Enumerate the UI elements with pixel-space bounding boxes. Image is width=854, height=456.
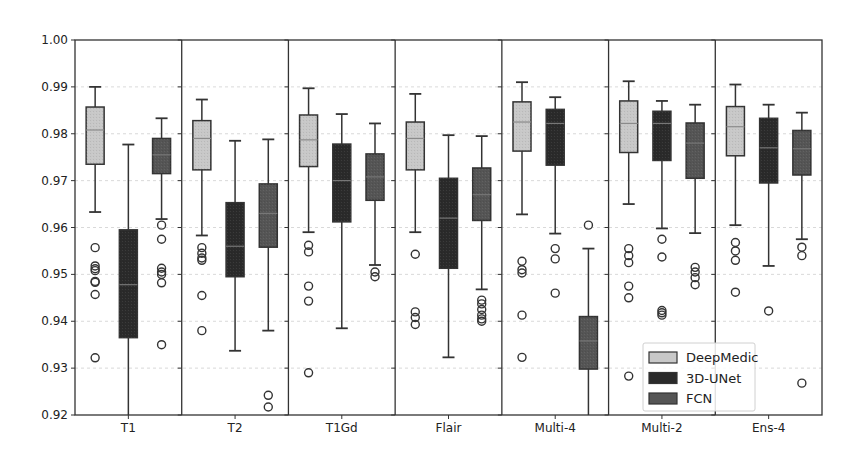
outlier-point [518, 257, 526, 265]
outlier-point [658, 253, 666, 261]
y-tick-label: 0.99 [41, 80, 68, 94]
box-3d-unet-t2 [226, 141, 244, 351]
outlier-point [551, 245, 559, 253]
legend-swatch [649, 373, 677, 384]
x-tick-label: Flair [436, 421, 462, 435]
y-tick-label: 0.95 [41, 267, 68, 281]
box-fcn-ens-4 [793, 113, 811, 387]
box-deepmedic-ens-4 [726, 85, 744, 297]
chart-canvas: 0.920.930.940.950.960.970.980.991.00 T1T… [0, 0, 854, 456]
outlier-point [411, 250, 419, 258]
outlier-point [518, 311, 526, 319]
y-axis: 0.920.930.940.950.960.970.980.991.00 [41, 33, 75, 422]
box-fcn-t2 [259, 139, 277, 411]
outlier-point [551, 255, 559, 263]
x-tick-label: Multi-2 [641, 421, 682, 435]
outlier-point [765, 307, 773, 315]
legend-label: 3D-UNet [686, 371, 741, 386]
y-tick-label: 0.97 [41, 174, 68, 188]
outlier-point [264, 391, 272, 399]
outlier-point [658, 235, 666, 243]
outlier-point [91, 291, 99, 299]
outlier-point [264, 403, 272, 411]
legend-item-deepmedic: DeepMedic [649, 350, 758, 365]
outlier-point [158, 221, 166, 229]
outlier-point [731, 247, 739, 255]
y-tick-label: 0.96 [41, 221, 68, 235]
outlier-point [798, 252, 806, 260]
outlier-point [158, 279, 166, 287]
legend-swatch [649, 352, 677, 363]
box-fcn-t1gd [366, 123, 384, 280]
box-fcn-t1 [153, 118, 171, 348]
outlier-point [798, 379, 806, 387]
box-fcn-multi-4 [579, 221, 597, 415]
outlier-point [158, 235, 166, 243]
box-3d-unet-multi-4 [546, 97, 564, 297]
box-plot-chart: 0.920.930.940.950.960.970.980.991.00 T1T… [0, 0, 854, 456]
box-3d-unet-multi-2 [653, 101, 671, 319]
box-3d-unet-flair [440, 135, 458, 357]
outlier-point [731, 288, 739, 296]
x-tick-label: T1Gd [325, 421, 358, 435]
legend-item-3d-unet: 3D-UNet [649, 371, 741, 386]
legend-label: FCN [686, 391, 712, 406]
y-tick-label: 1.00 [41, 33, 68, 47]
box-deepmedic-flair [406, 94, 424, 329]
legend: DeepMedic3D-UNetFCN [643, 343, 758, 411]
box-deepmedic-t1gd [300, 88, 318, 377]
x-tick-label: T1 [120, 421, 136, 435]
outlier-point [625, 372, 633, 380]
outlier-point [625, 282, 633, 290]
x-axis: T1T2T1GdFlairMulti-4Multi-2Ens-4 [120, 415, 785, 435]
outlier-point [198, 291, 206, 299]
box-3d-unet-t1gd [333, 114, 351, 328]
outlier-point [305, 282, 313, 290]
x-tick-label: Ens-4 [752, 421, 785, 435]
outlier-point [584, 221, 592, 229]
outlier-point [158, 341, 166, 349]
outlier-point [798, 243, 806, 251]
outlier-point [305, 297, 313, 305]
legend-swatch [649, 393, 677, 404]
box-3d-unet-ens-4 [760, 105, 778, 315]
y-tick-label: 0.92 [41, 408, 68, 422]
outlier-point [731, 239, 739, 247]
box-deepmedic-t2 [193, 100, 211, 335]
legend-label: DeepMedic [686, 350, 758, 365]
y-tick-label: 0.93 [41, 361, 68, 375]
outlier-point [91, 244, 99, 252]
box-3d-unet-t1 [119, 145, 137, 415]
outlier-point [518, 353, 526, 361]
outlier-point [305, 369, 313, 377]
y-tick-label: 0.98 [41, 127, 68, 141]
box-fcn-multi-2 [686, 105, 704, 289]
y-tick-label: 0.94 [41, 314, 68, 328]
box-deepmedic-t1 [86, 87, 104, 362]
outlier-point [91, 354, 99, 362]
box-deepmedic-multi-4 [513, 82, 531, 361]
outlier-point [198, 327, 206, 335]
outlier-point [731, 256, 739, 264]
box-fcn-flair [473, 136, 491, 325]
outlier-point [551, 289, 559, 297]
outlier-point [625, 294, 633, 302]
x-tick-label: Multi-4 [535, 421, 576, 435]
x-tick-label: T2 [227, 421, 243, 435]
box-deepmedic-multi-2 [620, 81, 638, 380]
